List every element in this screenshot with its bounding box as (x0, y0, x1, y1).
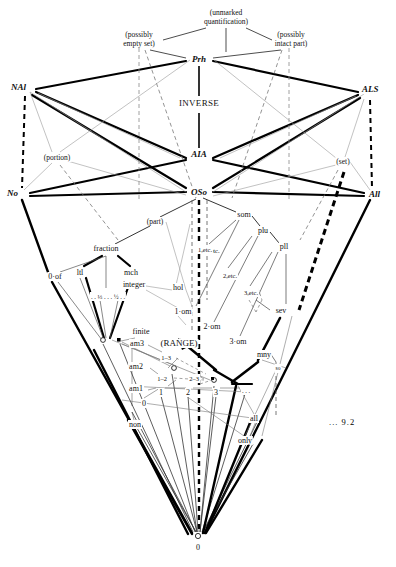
node-mch: mch (123, 268, 139, 277)
edge-group-prh-beams (36, 61, 358, 92)
fraction-node-o (101, 338, 106, 343)
node-plu: plu (257, 226, 269, 235)
node-set: (set) (335, 157, 350, 166)
node-integer: integer (122, 280, 146, 289)
node-2-etc: 2,etc. (222, 271, 238, 280)
node-only: only (237, 436, 253, 445)
node-non: non (128, 420, 142, 429)
node-pll: pll (279, 242, 289, 251)
node-am3: am3 (129, 339, 145, 348)
node-mny: mny (256, 350, 272, 359)
node-finite: finite (132, 327, 151, 336)
edge-group-paren-to-prh (150, 50, 281, 58)
edge-group-set-thick-dash (299, 172, 344, 310)
node-all-lower: all (249, 414, 259, 423)
node-fraction: fraction (93, 244, 120, 253)
node-ltl: ltl (76, 268, 85, 277)
node-range: (RANGE) (160, 339, 199, 348)
node-1-om: 1·om (174, 307, 193, 316)
node-range-1-2: 1–2 (156, 374, 168, 383)
edge-group-top-fan (163, 28, 272, 52)
node-oso: OSo (190, 188, 208, 197)
finite-node-square (117, 338, 121, 342)
node-part: (part) (146, 217, 165, 226)
edge-group-am-ladder (121, 338, 240, 420)
node-am2: am2 (128, 362, 144, 371)
node-possibly-empty-set: (possibly empty set) (122, 30, 155, 48)
node-hol: hol (172, 283, 184, 292)
node-inverse: INVERSE (178, 99, 220, 108)
node-all-upper: All (368, 190, 381, 199)
node-nal: NAl (10, 83, 27, 92)
node-unmarked-quantification: (unmarked quantification) (203, 8, 249, 26)
node-3-om: 3·om (229, 337, 248, 346)
lattice-svg (0, 0, 396, 567)
node-number-1: 1 (158, 388, 164, 397)
figure-reference: ... 9.2 (329, 417, 355, 427)
node-1-etc: 1,etc. (197, 245, 213, 254)
node-2-om: 2·om (203, 322, 222, 331)
node-portion: (portion) (43, 153, 72, 162)
node-bottom-zero: 0 (195, 543, 201, 552)
node-3-etc: 3,etc. (243, 288, 259, 297)
node-als: ALS (361, 85, 380, 94)
node-som: som (236, 210, 251, 219)
node-sev: sev (275, 306, 288, 315)
node-number-3: 3 (213, 388, 219, 397)
diagram-canvas: (unmarked quantification) (possibly empt… (0, 0, 396, 567)
node-number-ellipsis: . . . (241, 386, 251, 395)
node-range-2-3: 2–3 (188, 374, 200, 383)
range-node-o-left (172, 366, 177, 371)
edge-group-centre-dashed-grey (139, 48, 289, 200)
node-possibly-intact-part: (possibly intact part) (274, 30, 309, 48)
node-range-1-3: 1–3 (160, 353, 172, 362)
edge-group-bottom-fan-thin (103, 344, 258, 532)
node-number-0: 0 (141, 399, 147, 408)
range-node-square (211, 377, 214, 380)
node-aia: AIA (190, 150, 208, 159)
node-number-2: 2 (185, 388, 191, 397)
apex-node-o (195, 533, 200, 538)
node-0-of: 0·of (47, 272, 62, 281)
edge-group-grey-web-upper (24, 60, 370, 196)
node-so: so (275, 364, 282, 373)
node-prh: Prh (191, 55, 207, 64)
node-am1: am1 (128, 384, 144, 393)
edge-group-oso-fan (115, 198, 279, 244)
node-no: No (6, 189, 19, 198)
node-fraction-scale: . . ⅓ . . . ½ . . (90, 292, 126, 301)
